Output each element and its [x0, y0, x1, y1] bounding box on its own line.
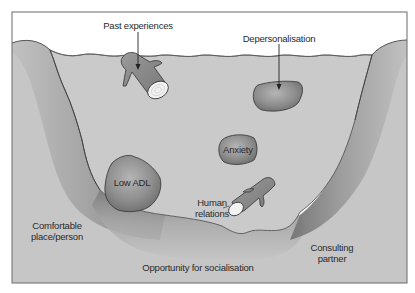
- label-depersonalisation: Depersonalisation: [243, 33, 316, 44]
- label-human-relations-1: Human: [197, 197, 227, 208]
- label-consulting-2: partner: [318, 253, 347, 264]
- label-consulting-1: Consulting: [311, 242, 354, 253]
- label-anxiety: Anxiety: [223, 144, 253, 155]
- label-opportunity: Opportunity for socialisation: [142, 262, 253, 273]
- label-human-relations-2: relations: [195, 208, 230, 219]
- river-metaphor-diagram: Past experiences Depersonalisation Anxie…: [0, 0, 415, 293]
- label-comfortable-2: place/person: [31, 231, 83, 242]
- label-low-adl: Low ADL: [114, 177, 151, 188]
- label-past-experiences: Past experiences: [103, 20, 173, 31]
- label-comfortable-1: Comfortable: [32, 220, 82, 231]
